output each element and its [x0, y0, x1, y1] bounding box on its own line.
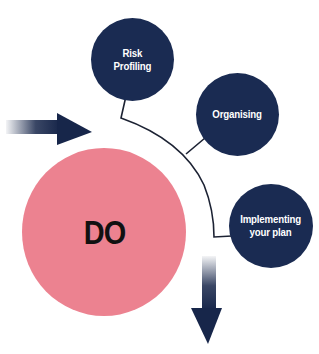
do-circle: DO: [22, 148, 186, 316]
node-implementing-your-plan: Implementing your plan: [229, 184, 313, 268]
node-organising-label: Organising: [213, 108, 262, 121]
outgoing-arrow-icon: [191, 256, 222, 344]
node-implementing-label: Implementing your plan: [241, 213, 302, 239]
organising-branch-line: [186, 138, 205, 154]
incoming-arrow-icon: [6, 113, 92, 145]
do-phase-diagram: DO Risk Profiling Organising Implementin…: [0, 0, 319, 354]
do-label: DO: [83, 213, 125, 252]
node-risk-profiling: Risk Profiling: [91, 18, 174, 101]
node-organising: Organising: [196, 73, 279, 156]
node-risk-profiling-label: Risk Profiling: [114, 47, 152, 73]
